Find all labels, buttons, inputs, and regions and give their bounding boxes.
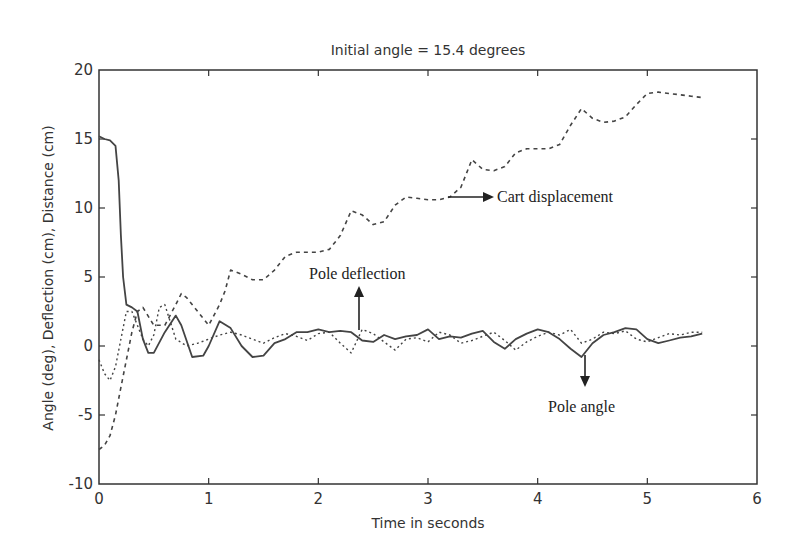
annotation-pole-deflection: Pole deflection [309, 265, 405, 330]
x-tick-label: 0 [94, 490, 104, 508]
arrowhead-right-icon [483, 192, 494, 202]
x-tick-label: 1 [204, 490, 214, 508]
y-tick-label: 20 [74, 61, 93, 79]
x-tick-labels: 0123456 [94, 490, 762, 508]
annotation-cart-label: Cart displacement [497, 188, 614, 206]
axis-ticks [99, 70, 757, 484]
x-tick-label: 5 [643, 490, 653, 508]
x-tick-label: 4 [533, 490, 543, 508]
y-tick-label: 10 [74, 199, 93, 217]
y-tick-label: 0 [83, 337, 93, 355]
arrowhead-down-icon [580, 376, 590, 387]
y-tick-labels: -10-505101520 [69, 61, 94, 493]
plot-area [99, 70, 757, 484]
chart: Initial angle = 15.4 degrees 0123456 -10… [0, 0, 788, 553]
y-tick-label: 15 [74, 130, 93, 148]
arrowhead-up-icon [354, 286, 364, 297]
chart-title: Initial angle = 15.4 degrees [331, 42, 526, 58]
x-axis-label: Time in seconds [370, 515, 484, 531]
x-tick-label: 6 [752, 490, 762, 508]
y-axis-label: Angle (deg), Deflection (cm), Distance (… [40, 125, 56, 430]
plot-frame [99, 70, 757, 484]
series-pole-angle [99, 136, 702, 357]
x-tick-label: 3 [423, 490, 433, 508]
annotation-angle-label: Pole angle [548, 398, 615, 416]
annotation-pole-angle: Pole angle [548, 355, 615, 416]
y-tick-label: -5 [78, 406, 93, 424]
annotation-cart-displacement: Cart displacement [448, 188, 614, 206]
series-pole-deflection [99, 305, 702, 381]
annotation-deflection-label: Pole deflection [309, 265, 405, 282]
x-tick-label: 2 [314, 490, 324, 508]
y-tick-label: 5 [83, 268, 93, 286]
y-tick-label: -10 [69, 475, 94, 493]
